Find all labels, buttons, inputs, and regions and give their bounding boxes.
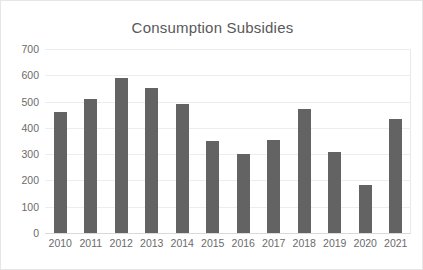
bar (267, 140, 280, 233)
y-tick-label: 600 (5, 69, 39, 81)
x-tick-label: 2021 (376, 237, 416, 249)
y-tick-label: 300 (5, 148, 39, 160)
bar (359, 185, 372, 233)
y-tick-label: 400 (5, 122, 39, 134)
x-axis-baseline (45, 233, 411, 234)
bar (237, 154, 250, 233)
y-tick-label: 500 (5, 96, 39, 108)
chart-title: Consumption Subsidies (1, 19, 423, 36)
bar (115, 78, 128, 233)
x-axis: 2010201120122013201420152016201720182019… (45, 237, 411, 257)
y-tick-label: 700 (5, 43, 39, 55)
bar (54, 112, 67, 233)
bar (84, 99, 97, 233)
y-tick-label: 100 (5, 201, 39, 213)
bar (389, 119, 402, 233)
bar-series (45, 49, 411, 233)
chart-container: Consumption Subsidies 010020030040050060… (0, 0, 423, 270)
bar (145, 88, 158, 233)
bar (206, 141, 219, 233)
bar (328, 152, 341, 233)
y-tick-label: 0 (5, 227, 39, 239)
y-axis: 0100200300400500600700 (1, 49, 39, 233)
y-tick-label: 200 (5, 174, 39, 186)
bar (176, 104, 189, 233)
bar (298, 109, 311, 233)
